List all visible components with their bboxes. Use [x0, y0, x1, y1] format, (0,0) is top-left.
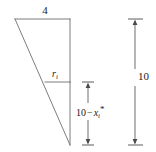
- minus-sign: −: [86, 107, 94, 118]
- total-height-arrow-down-icon: [133, 139, 138, 145]
- total-height-label: 10: [138, 71, 149, 82]
- radius-label: ri: [52, 69, 58, 81]
- height-segment-label: 10−xi*: [76, 105, 105, 120]
- total-height-arrow-up-icon: [133, 20, 138, 26]
- top-width-label: 4: [39, 5, 51, 16]
- radius-subscript: i: [56, 73, 58, 81]
- figure-container: 4 ri 10−xi* 10: [0, 0, 156, 152]
- total-height-dimension: [128, 19, 143, 145]
- height-segment-number: 10: [76, 107, 86, 118]
- height-segment-arrow-up-icon: [86, 83, 91, 89]
- triangle-diagram-svg: [0, 0, 156, 152]
- height-segment-star: *: [100, 104, 105, 114]
- height-segment-arrow-down-icon: [86, 139, 91, 145]
